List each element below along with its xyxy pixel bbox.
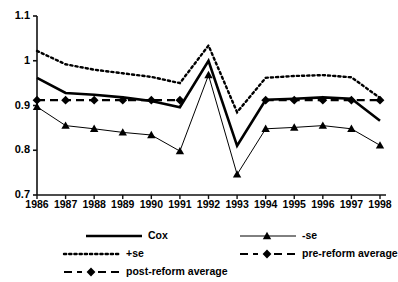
legend-line-sample (238, 246, 300, 261)
series--se (37, 46, 380, 113)
legend-label: Cox (148, 229, 168, 242)
legend-label: -se (302, 229, 317, 242)
series-marker (233, 170, 241, 177)
plot-area: 0.70.80.911.1198619871988198919901991199… (0, 0, 394, 215)
legend-marker (87, 268, 96, 277)
x-axis-tick-label: 1998 (363, 199, 397, 210)
series-marker (61, 121, 69, 128)
series-marker (290, 96, 299, 105)
series-marker (147, 96, 156, 105)
y-axis-tick-label: 0.9 (0, 100, 30, 111)
series-marker (176, 147, 184, 154)
series-marker (376, 96, 385, 105)
chart-legend: Cox-se+sepre-reform averagepost-reform a… (0, 226, 394, 282)
legend-marker-shape (87, 268, 96, 277)
series-line (37, 75, 380, 174)
legend-label: pre-reform average (302, 247, 398, 260)
legend-marker (263, 250, 272, 259)
legend-line-sample (62, 264, 124, 279)
series-line (37, 46, 380, 113)
series-marker (376, 141, 384, 148)
legend-line-sample (238, 228, 300, 243)
legend-line-sample (62, 246, 124, 261)
y-axis-tick-label: 1.1 (0, 10, 30, 21)
series-marker (319, 121, 327, 128)
legend-line-sample (84, 228, 146, 243)
y-axis-tick-label: 1 (0, 55, 30, 66)
series-post-reform-average (261, 96, 384, 105)
legend-label: +se (126, 247, 144, 260)
chart-canvas (0, 0, 394, 215)
series--se (33, 71, 384, 178)
legend-label: post-reform average (126, 265, 228, 278)
series-marker (347, 96, 356, 105)
series-marker (33, 96, 42, 105)
series-marker (90, 96, 99, 105)
y-axis-tick-label: 0.8 (0, 144, 30, 155)
legend-marker-shape (263, 250, 272, 259)
series-marker (61, 96, 70, 105)
